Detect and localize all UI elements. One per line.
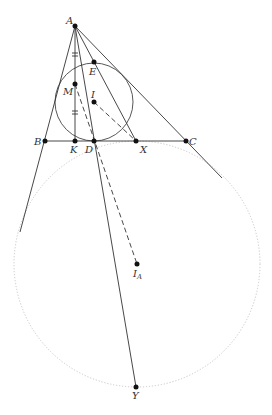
label-C: C <box>189 136 197 147</box>
point-C <box>184 139 189 144</box>
label-IA: IA <box>132 268 142 281</box>
label-Y: Y <box>132 390 140 401</box>
dashed-M-IA <box>75 84 137 264</box>
point-I <box>92 100 97 105</box>
label-B: B <box>33 136 41 147</box>
geometry-diagram: A E M I B K D X C IA Y <box>0 0 272 415</box>
point-B <box>43 139 48 144</box>
label-K: K <box>69 144 78 155</box>
label-A: A <box>65 15 73 26</box>
label-I: I <box>90 89 96 100</box>
point-K <box>73 139 78 144</box>
label-E: E <box>88 66 97 77</box>
line-AB <box>20 26 75 232</box>
point-Y <box>134 385 139 390</box>
point-D <box>92 139 97 144</box>
point-E <box>92 60 97 65</box>
label-M: M <box>62 86 74 97</box>
label-X: X <box>139 144 148 155</box>
line-AX <box>75 26 136 141</box>
point-A <box>73 24 78 29</box>
point-M <box>73 82 78 87</box>
label-D: D <box>84 144 93 155</box>
point-X <box>134 139 139 144</box>
point-IA <box>135 262 140 267</box>
